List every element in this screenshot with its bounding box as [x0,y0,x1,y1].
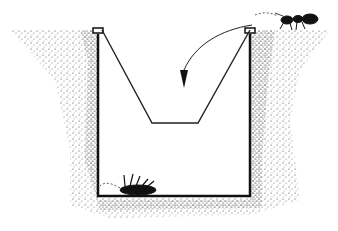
soil [10,30,330,218]
ant-icon [275,13,318,30]
funnel-insert [102,30,250,123]
trap-container [93,28,255,196]
trapped-beetle-icon [100,174,156,195]
pitfall-trap-illustration [0,0,338,231]
